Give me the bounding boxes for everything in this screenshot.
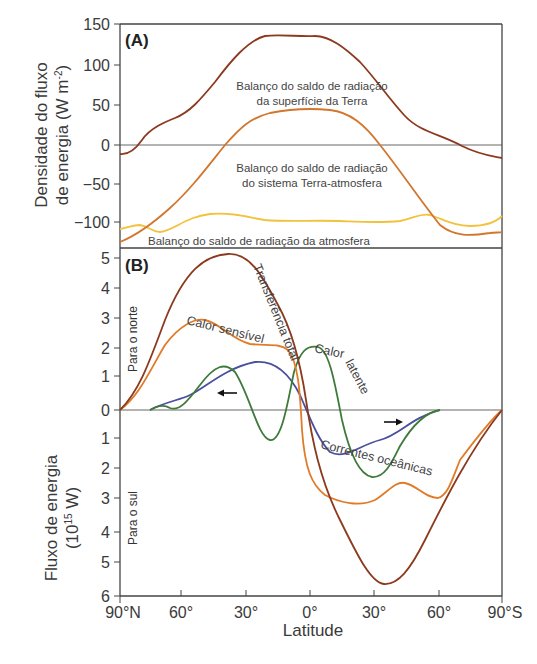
b-ytick: 5 [101, 250, 110, 267]
b-ytick: 5 [101, 554, 110, 571]
xtick: 30° [234, 604, 258, 621]
a-ytick: −100 [74, 214, 110, 231]
a-ytick: 150 [83, 16, 110, 33]
energy-flux-chart: 150 100 50 0 −50 −100 (A) Balanço do sal… [0, 0, 537, 664]
y-axis-label-b: Fluxo de energia (1015 W) [42, 454, 82, 581]
b-ytick: 1 [101, 430, 110, 447]
b-ytick: 1 [101, 368, 110, 385]
y-label-b-line2: (1015 W) [63, 487, 82, 549]
annotation-calor-sensivel: Calor sensível [185, 313, 265, 346]
y-label-a-line2: de energia (W m-2) [53, 65, 72, 205]
annotation-correntes-oceanicas: Correntes oceânicas [319, 437, 434, 478]
b-ytick: 2 [101, 340, 110, 357]
annotation-system-1: Balanço do saldo de radiação [236, 162, 388, 174]
xtick: 0° [302, 604, 317, 621]
series-ocean-currents [150, 362, 440, 454]
y-label-b-line1: Fluxo de energia [42, 454, 61, 581]
b-ytick: 3 [101, 310, 110, 327]
b-ytick: 3 [101, 490, 110, 507]
y-axis-label-a: Densidade do fluxo de energia (W m-2) [32, 62, 72, 208]
annotation-transferencia-total: Transferência total [250, 262, 302, 363]
a-ytick: 0 [101, 137, 110, 154]
annotation-atmosphere: Balanço do saldo de radiação da atmosfer… [148, 235, 370, 247]
annotation-surface-2: da superfície da Terra [256, 95, 368, 107]
panel-a-label: (A) [125, 31, 149, 50]
annotation-calor-latente-1: Calor [313, 341, 345, 361]
annotation-para-o-sul: Para o sul [126, 491, 140, 545]
xtick: 60° [427, 604, 451, 621]
x-axis-label: Latitude [283, 621, 344, 640]
panel-b-label: (B) [125, 256, 149, 275]
panel-b: 5 4 3 2 1 0 1 2 3 4 5 6 90°N 60° 30° 0° … [101, 248, 522, 640]
a-ytick: 50 [92, 97, 110, 114]
xtick: 90°S [488, 604, 523, 621]
b-ytick: 0 [101, 402, 110, 419]
y-label-a-line1: Densidade do fluxo [32, 62, 51, 208]
arrow-right-icon [384, 419, 403, 426]
xtick: 30° [362, 604, 386, 621]
annotation-surface-1: Balanço do saldo de radiação [236, 80, 388, 92]
a-ytick: −50 [83, 176, 110, 193]
b-ytick: 4 [101, 524, 110, 541]
b-ytick: 2 [101, 460, 110, 477]
xtick: 90°N [105, 604, 141, 621]
annotation-calor-latente-2: latente [342, 357, 372, 397]
annotation-para-o-norte: Para o norte [126, 306, 140, 372]
b-ytick: 6 [101, 588, 110, 605]
arrow-left-icon [217, 390, 237, 397]
a-ytick: 100 [83, 57, 110, 74]
b-ytick: 4 [101, 280, 110, 297]
series-system [120, 109, 502, 242]
annotation-system-2: do sistema Terra-atmosfera [242, 177, 382, 189]
xtick: 60° [169, 604, 193, 621]
